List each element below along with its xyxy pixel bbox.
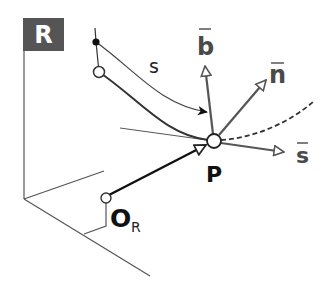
curve-start-point bbox=[94, 67, 105, 78]
axis-upper-right bbox=[24, 171, 104, 199]
normal-vector bbox=[219, 80, 266, 135]
point-label: P bbox=[206, 162, 222, 187]
frame-label: R bbox=[34, 21, 52, 49]
origin-label-group: O R bbox=[110, 204, 141, 235]
tangent-vector bbox=[221, 143, 284, 152]
start-point-filled bbox=[92, 38, 99, 45]
frame-label-box: R bbox=[23, 18, 64, 51]
arc-length-label: s bbox=[149, 55, 159, 77]
tangent-label-group: s bbox=[296, 143, 309, 168]
point-p bbox=[207, 134, 221, 148]
frenet-frame-diagram: R s b n s P O R bbox=[0, 0, 331, 290]
binormal-label: b bbox=[197, 33, 214, 61]
origin-label: O bbox=[110, 204, 131, 233]
origin-offset-line bbox=[84, 203, 106, 234]
origin-subscript: R bbox=[131, 219, 141, 235]
origin-point bbox=[101, 193, 111, 203]
trajectory-curve bbox=[99, 72, 208, 140]
arc-length-arrow bbox=[96, 42, 207, 112]
reference-frame-axes bbox=[24, 51, 150, 276]
tangent-label: s bbox=[296, 143, 309, 168]
trajectory-continuation bbox=[221, 102, 313, 140]
normal-label-group: n bbox=[269, 61, 286, 89]
binormal-label-group: b bbox=[197, 29, 214, 61]
position-vector bbox=[109, 145, 206, 195]
normal-label: n bbox=[269, 61, 286, 89]
binormal-vector bbox=[205, 66, 213, 134]
